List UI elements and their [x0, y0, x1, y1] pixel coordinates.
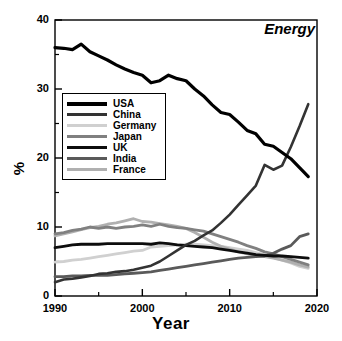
legend-label: Germany [113, 120, 156, 131]
legend-swatch-usa [67, 102, 107, 106]
chart-figure: Energy Year % 0102030401990200020102020 … [0, 0, 342, 341]
legend-swatch-japan [67, 135, 107, 138]
legend-swatch-germany [67, 124, 107, 127]
legend-item-france[interactable]: France [67, 164, 161, 175]
y-tick-label: 40 [23, 13, 49, 25]
x-axis-label: Year [0, 314, 342, 334]
legend-label: USA [113, 98, 134, 109]
legend-label: France [113, 164, 146, 175]
legend-swatch-uk [67, 146, 107, 149]
y-tick-label: 10 [23, 220, 49, 232]
y-tick-label: 0 [23, 289, 49, 301]
legend-swatch-france [67, 168, 107, 171]
legend-swatch-india [67, 157, 107, 160]
y-tick-label: 20 [23, 151, 49, 163]
y-axis-label: % [10, 139, 27, 199]
legend-item-usa[interactable]: USA [67, 98, 161, 109]
x-tick-label: 2010 [207, 302, 253, 314]
line-chart-plot [0, 0, 342, 341]
legend-item-india[interactable]: India [67, 153, 161, 164]
series-line-uk [55, 243, 308, 258]
panel-title: Energy [264, 20, 315, 37]
legend-item-uk[interactable]: UK [67, 142, 161, 153]
y-tick-label: 30 [23, 82, 49, 94]
legend-label: Japan [113, 131, 142, 142]
legend-label: India [113, 153, 136, 164]
legend-item-germany[interactable]: Germany [67, 120, 161, 131]
x-tick-label: 1990 [32, 302, 78, 314]
legend-item-china[interactable]: China [67, 109, 161, 120]
legend-label: China [113, 109, 141, 120]
legend-label: UK [113, 142, 127, 153]
chart-legend: USAChinaGermanyJapanUKIndiaFrance [62, 93, 166, 180]
x-tick-label: 2020 [294, 302, 340, 314]
legend-swatch-china [67, 113, 107, 116]
x-tick-label: 2000 [119, 302, 165, 314]
legend-item-japan[interactable]: Japan [67, 131, 161, 142]
